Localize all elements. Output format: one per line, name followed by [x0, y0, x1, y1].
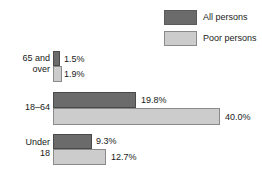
plot-area: 65 and over 1.5% 1.9% 18–64 19.8% 40.0% …: [0, 0, 262, 180]
bar-value-all-persons-under-18: 9.3%: [96, 137, 117, 146]
bar-chart: All persons Poor persons 65 and over 1.5…: [0, 0, 262, 180]
bar-poor-persons-under-18: [53, 149, 106, 165]
category-label-line: 18: [0, 148, 50, 159]
bar-all-persons-under-18: [53, 134, 92, 149]
category-label-line: Under: [0, 137, 50, 148]
category-label-under-18: Under 18: [0, 137, 50, 159]
bar-group-under-18: Under 18 9.3% 12.7%: [0, 0, 262, 180]
bar-value-poor-persons-under-18: 12.7%: [111, 153, 137, 162]
